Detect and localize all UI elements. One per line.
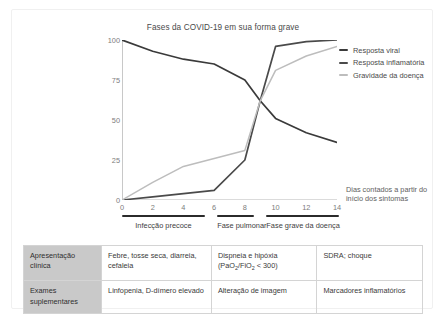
x-tick-12: 12 [302,203,310,212]
x-tick-10: 10 [271,203,279,212]
series-line-1 [122,40,337,200]
legend-swatch-icon-0 [339,49,348,51]
chart-legend: Resposta viralResposta inflamatóriaGravi… [339,44,439,82]
x-tick-0: 0 [120,203,124,212]
phase-label-0: Infecção precoce [122,221,205,230]
legend-swatch-icon-2 [339,74,348,76]
x-tick-8: 8 [243,203,247,212]
table-cell-0-2: SDRA; choque [317,246,423,281]
table-rowhead-1: Exames suplementares [24,281,102,314]
table-cell-1-1: Alteração de imagem [211,281,317,314]
table-cell-1-2: Marcadores inflamatórios [317,281,423,314]
phase-bar-0 [122,215,205,217]
x-tick-2: 2 [151,203,155,212]
legend-label-2: Gravidade da doença [353,71,424,80]
legend-item-0[interactable]: Resposta viral [339,44,439,57]
table-cell-1-0: Linfopenia, D-dímero elevado [102,281,212,314]
phase-0: Infecção precoce [122,215,205,230]
chart-plot-area [122,40,337,200]
phase-bar-1 [217,215,254,217]
x-tick-4: 4 [181,203,185,212]
phase-label-2: Fase grave da doença [266,221,338,230]
legend-label-0: Resposta viral [353,46,400,55]
y-tick-50: 50 [112,116,120,125]
clinical-phases-table: Apresentação clínicaFebre, tosse seca, d… [23,245,423,314]
table-rowhead-0: Apresentação clínica [24,246,102,281]
table-cell-0-1: Dispneia e hipóxia (PaO2/FiO2 < 300) [211,246,317,281]
x-tick-14: 14 [333,203,341,212]
x-axis-tick-labels: 02468101214 [122,203,337,215]
table-cell-0-0: Febre, tosse seca, diarreia, cefaleia [102,246,212,281]
legend-item-2[interactable]: Gravidade da doença [339,69,439,82]
legend-label-1: Resposta inflamatória [353,58,424,67]
phase-label-1: Fase pulmonar [217,221,254,230]
phase-1: Fase pulmonar [217,215,254,230]
table-row: Exames suplementaresLinfopenia, D-dímero… [24,281,423,314]
chart-title: Fases da COVID-19 em sua forma grave [12,23,434,32]
figure-frame: Fases da COVID-19 em sua forma grave 025… [11,9,433,309]
x-axis-caption: Dias contados a partir do início dos sin… [346,185,438,203]
phase-bar-2 [266,215,338,217]
table-row: Apresentação clínicaFebre, tosse seca, d… [24,246,423,281]
screenshot-root: Fases da COVID-19 em sua forma grave 025… [0,0,444,318]
y-tick-75: 75 [112,76,120,85]
series-line-2 [122,46,337,200]
legend-item-1[interactable]: Resposta inflamatória [339,57,439,70]
y-tick-100: 100 [108,36,120,45]
y-tick-25: 25 [112,156,120,165]
phase-bars: Infecção precoceFase pulmonarFase grave … [122,215,362,237]
line-chart-svg [122,40,337,200]
y-axis-tick-labels: 0255075100 [98,40,120,200]
series-line-0 [122,40,337,142]
phase-2: Fase grave da doença [266,215,338,230]
legend-swatch-icon-1 [339,62,348,64]
x-tick-6: 6 [212,203,216,212]
